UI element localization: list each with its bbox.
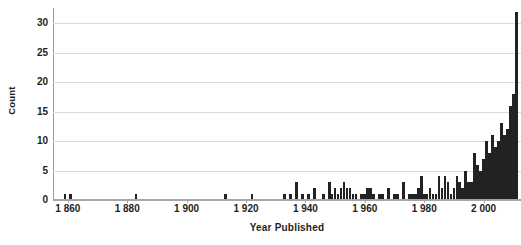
- gridline: [53, 53, 521, 54]
- bar: [295, 182, 298, 200]
- x-axis-tick-labels: 1 8601 8801 9001 9201 9401 9601 9802 000: [53, 200, 521, 218]
- y-tick-label: 5: [14, 166, 48, 176]
- x-tick-label: 1 940: [293, 203, 318, 214]
- bar: [515, 12, 518, 200]
- x-tick-label: 1 880: [115, 203, 140, 214]
- x-tick-label: 1 920: [234, 203, 259, 214]
- histogram-chart: Count 051015202530 1 8601 8801 9001 9201…: [0, 0, 521, 245]
- x-tick-label: 1 900: [174, 203, 199, 214]
- x-tick-label: 1 960: [352, 203, 377, 214]
- plot-area: [53, 8, 521, 200]
- y-tick-label: 30: [14, 18, 48, 28]
- y-tick-label: 0: [14, 195, 48, 205]
- gridline: [53, 112, 521, 113]
- gridline: [53, 23, 521, 24]
- x-axis-title: Year Published: [53, 222, 521, 233]
- x-tick-label: 1 980: [412, 203, 437, 214]
- y-tick-label: 20: [14, 77, 48, 87]
- y-tick-label: 25: [14, 48, 48, 58]
- gridline: [53, 82, 521, 83]
- y-tick-label: 15: [14, 107, 48, 117]
- y-tick-label: 10: [14, 136, 48, 146]
- bar: [402, 182, 405, 200]
- y-axis-tick-labels: 051015202530: [14, 0, 48, 245]
- x-tick-label: 1 860: [55, 203, 80, 214]
- gridline: [53, 141, 521, 142]
- gridline: [53, 171, 521, 172]
- x-tick-label: 2 000: [471, 203, 496, 214]
